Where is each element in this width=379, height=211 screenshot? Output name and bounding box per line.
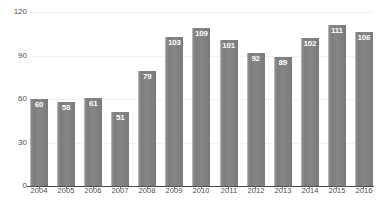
bar-2015[interactable]: 111: [328, 25, 346, 186]
x-axis-label-2013: 2013: [274, 187, 291, 195]
bar-2009[interactable]: 103: [165, 37, 183, 186]
bar-group-2008[interactable]: 79: [138, 12, 156, 186]
x-axis-label-2014: 2014: [301, 187, 318, 195]
bar-group-2006[interactable]: 61: [84, 12, 102, 186]
bar-2012[interactable]: 92: [247, 53, 265, 186]
bar-value-label: 60: [30, 101, 48, 109]
x-axis-label-2007: 2007: [112, 187, 129, 195]
bar-group-2015[interactable]: 111: [328, 12, 346, 186]
bar-group-2007[interactable]: 51: [111, 12, 129, 186]
bar-value-label: 111: [328, 27, 346, 35]
x-axis-label-2010: 2010: [193, 187, 210, 195]
x-axis-label-2008: 2008: [139, 187, 156, 195]
x-axis-label-2011: 2011: [220, 187, 237, 195]
bar-value-label: 51: [111, 114, 129, 122]
bar-group-2010[interactable]: 109: [192, 12, 210, 186]
x-axis-label-2004: 2004: [30, 187, 47, 195]
bar-value-label: 89: [274, 59, 292, 67]
x-axis-label-2009: 2009: [166, 187, 183, 195]
bar-2010[interactable]: 109: [192, 28, 210, 186]
bar-group-2009[interactable]: 103: [165, 12, 183, 186]
bar-value-label: 101: [220, 42, 238, 50]
y-axis-label: 30: [3, 139, 27, 147]
x-axis-label-2016: 2016: [355, 187, 372, 195]
bar-group-2011[interactable]: 101: [220, 12, 238, 186]
x-axis-label-2006: 2006: [85, 187, 102, 195]
y-axis-label: 120: [3, 8, 27, 16]
bar-2006[interactable]: 61: [84, 98, 102, 186]
bar-value-label: 109: [192, 30, 210, 38]
bar-2013[interactable]: 89: [274, 57, 292, 186]
bar-chart: 0306090120 60586151791031091019289102111…: [0, 0, 379, 211]
x-axis-labels: 2004200520062007200820092010201120122013…: [30, 187, 373, 195]
y-axis-label: 90: [3, 52, 27, 60]
bar-value-label: 106: [355, 34, 373, 42]
y-axis-label: 0: [3, 182, 27, 190]
bar-group-2012[interactable]: 92: [247, 12, 265, 186]
bar-value-label: 79: [138, 73, 156, 81]
y-axis: 0306090120: [0, 12, 27, 186]
bar-group-2005[interactable]: 58: [57, 12, 75, 186]
bar-value-label: 92: [247, 55, 265, 63]
bar-2004[interactable]: 60: [30, 99, 48, 186]
bar-group-2016[interactable]: 106: [355, 12, 373, 186]
bar-2008[interactable]: 79: [138, 71, 156, 186]
bars-container: 60586151791031091019289102111106: [30, 12, 373, 186]
bar-2016[interactable]: 106: [355, 32, 373, 186]
bar-2007[interactable]: 51: [111, 112, 129, 186]
bar-value-label: 103: [165, 39, 183, 47]
x-axis-label-2012: 2012: [247, 187, 264, 195]
bar-value-label: 61: [84, 100, 102, 108]
bar-2014[interactable]: 102: [301, 38, 319, 186]
bar-2005[interactable]: 58: [57, 102, 75, 186]
x-axis-label-2005: 2005: [58, 187, 75, 195]
bar-group-2014[interactable]: 102: [301, 12, 319, 186]
bar-2011[interactable]: 101: [220, 40, 238, 186]
bar-value-label: 102: [301, 40, 319, 48]
bar-value-label: 58: [57, 104, 75, 112]
bar-group-2004[interactable]: 60: [30, 12, 48, 186]
bar-group-2013[interactable]: 89: [274, 12, 292, 186]
y-axis-label: 60: [3, 95, 27, 103]
x-axis-label-2015: 2015: [328, 187, 345, 195]
